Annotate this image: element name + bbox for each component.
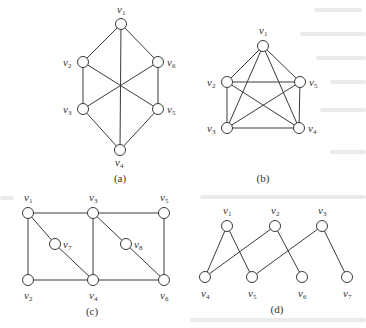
- vertex-label-v1: v1: [24, 191, 33, 205]
- graph-figure: v1v2v6v3v5v4(a)v1v2v5v3v4(b)v1v3v5v7v8v2…: [0, 0, 366, 328]
- vertex-label-v3: v3: [318, 204, 327, 218]
- edge-v3-v5: [252, 226, 322, 277]
- vertex-label-v6: v6: [298, 287, 307, 301]
- vertex-label-v2: v2: [207, 76, 216, 90]
- vertex-v5: [295, 77, 306, 88]
- vertex-v6: [153, 57, 164, 68]
- vertex-label-v7: v7: [63, 238, 72, 252]
- vertex-v6: [159, 275, 170, 286]
- graph-a-edges: [83, 24, 158, 150]
- graph-b: v1v2v5v3v4(b): [207, 24, 318, 185]
- vertex-v5: [153, 104, 164, 115]
- vertex-v5: [247, 272, 258, 283]
- vertex-label-v5: v5: [167, 103, 176, 117]
- vertex-v2: [270, 221, 281, 232]
- vertex-v2: [78, 57, 89, 68]
- edge-v1-v4: [263, 46, 299, 128]
- vertex-label-v4: v4: [89, 289, 98, 303]
- vertex-label-v2: v2: [24, 289, 33, 303]
- vertex-label-v1: v1: [259, 24, 268, 38]
- graph-c: v1v3v5v7v8v2v4v6(c): [23, 191, 170, 318]
- vertex-v4: [115, 145, 126, 156]
- graph-b-edges: [227, 46, 300, 128]
- vertex-v4: [88, 275, 99, 286]
- edge-v1-v2: [83, 24, 121, 62]
- graph-d: v1v2v3v4v5v6v7(d): [200, 204, 353, 316]
- vertex-v7: [342, 272, 353, 283]
- caption-c: (c): [86, 305, 99, 318]
- vertex-label-v5: v5: [248, 287, 257, 301]
- vertex-v2: [222, 77, 233, 88]
- graph-d-edges: [205, 226, 347, 277]
- vertex-v1: [222, 221, 233, 232]
- edge-v1-v7: [28, 213, 55, 244]
- caption-a: (a): [114, 172, 127, 185]
- edge-v1-v2: [227, 46, 263, 82]
- edge-v2-v6: [275, 226, 302, 277]
- edge-v5-v4: [120, 109, 158, 150]
- graph-c-edges: [28, 213, 164, 280]
- vertex-label-v3: v3: [63, 103, 72, 117]
- caption-d: (d): [271, 303, 284, 316]
- edge-v3-v4: [83, 109, 120, 150]
- vertex-v4: [294, 123, 305, 134]
- edge-v7-v4: [55, 244, 93, 280]
- edge-v3-v8: [93, 213, 126, 244]
- vertex-label-v3: v3: [207, 122, 216, 136]
- vertex-label-v8: v8: [134, 238, 143, 252]
- vertex-label-v5: v5: [309, 76, 318, 90]
- vertex-label-v4: v4: [115, 156, 124, 170]
- vertex-label-v1: v1: [117, 3, 126, 17]
- vertex-v1: [116, 19, 127, 30]
- vertex-label-v3: v3: [89, 191, 98, 205]
- edge-v3-v7: [322, 226, 347, 277]
- vertex-label-v6: v6: [160, 289, 169, 303]
- vertex-v2: [23, 275, 34, 286]
- edge-v8-v6: [126, 244, 164, 280]
- vertex-label-v2: v2: [63, 56, 72, 70]
- vertex-label-v4: v4: [201, 287, 210, 301]
- vertex-v7: [50, 239, 61, 250]
- edge-v5-v4: [299, 82, 300, 128]
- vertex-label-v6: v6: [167, 56, 176, 70]
- vertex-v6: [297, 272, 308, 283]
- vertex-v1: [258, 41, 269, 52]
- vertex-label-v1: v1: [223, 204, 232, 218]
- vertex-label-v7: v7: [343, 287, 352, 301]
- vertex-v4: [200, 272, 211, 283]
- graph-a: v1v2v6v3v5v4(a): [63, 3, 176, 185]
- vertex-v5: [159, 208, 170, 219]
- edge-v1-v4: [120, 24, 121, 150]
- vertex-v8: [121, 239, 132, 250]
- vertex-v1: [23, 208, 34, 219]
- vertex-v3: [88, 208, 99, 219]
- vertex-v3: [78, 104, 89, 115]
- edge-v1-v5: [263, 46, 300, 82]
- vertex-label-v2: v2: [271, 204, 280, 218]
- vertex-label-v4: v4: [308, 122, 317, 136]
- vertex-v3: [222, 123, 233, 134]
- vertex-label-v5: v5: [160, 191, 169, 205]
- vertex-v3: [317, 221, 328, 232]
- edge-v1-v3: [227, 46, 263, 128]
- caption-b: (b): [257, 172, 270, 185]
- edge-v1-v6: [121, 24, 158, 62]
